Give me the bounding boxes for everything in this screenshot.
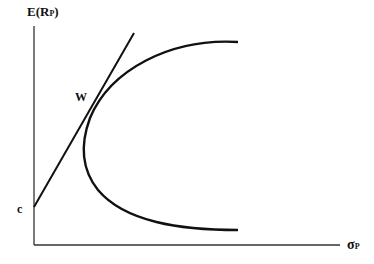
diagram-canvas — [0, 0, 374, 264]
efficient-frontier-curve — [84, 42, 238, 230]
x-axis-label-subscript: P — [355, 242, 360, 251]
x-axis-label: σP — [347, 237, 360, 253]
y-axis-label-text: E(R — [27, 4, 49, 19]
y-axis-label: E(RP) — [27, 4, 59, 20]
capital-market-line — [34, 33, 134, 207]
x-axis-label-text: σ — [347, 237, 355, 252]
y-axis-label-close: ) — [54, 4, 58, 19]
intercept-label: c — [17, 202, 22, 217]
tangent-point-label: W — [75, 90, 87, 105]
